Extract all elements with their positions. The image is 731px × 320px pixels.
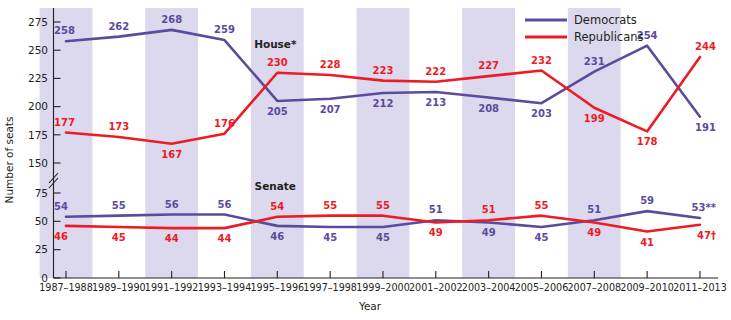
- y-tick-label: 150: [28, 157, 48, 169]
- data-point-label: 45: [535, 232, 549, 243]
- y-tick-label: 200: [28, 100, 48, 112]
- data-point-label: 41: [640, 237, 654, 248]
- data-point-label: 259: [214, 24, 235, 35]
- data-point-label: 177: [54, 117, 75, 128]
- data-point-label: 55: [323, 200, 337, 211]
- data-point-label: 212: [373, 98, 394, 109]
- chamber-label-house: House*: [254, 38, 297, 50]
- data-point-label: 55: [112, 200, 126, 211]
- data-point-label: 178: [637, 136, 658, 147]
- data-point-label: 45: [112, 232, 126, 243]
- data-point-label: 51: [482, 204, 496, 215]
- y-tick-label: 50: [35, 215, 48, 227]
- y-tick-label: 275: [28, 16, 48, 28]
- x-tick-label: 2003–2004: [462, 282, 516, 293]
- data-point-label: 55: [535, 200, 549, 211]
- x-tick-label: 2011–2013: [673, 282, 727, 293]
- data-point-label: 46: [270, 231, 284, 242]
- data-point-label: 222: [425, 66, 446, 77]
- x-tick-label: 1987–1988: [39, 282, 93, 293]
- data-point-label: 258: [54, 25, 75, 36]
- data-point-label: 205: [267, 106, 288, 117]
- data-point-label: 49: [482, 227, 496, 238]
- y-tick-label: 75: [35, 187, 48, 199]
- data-point-label: 232: [531, 55, 552, 66]
- data-point-label: 55: [376, 200, 390, 211]
- x-tick-label: 1995–1996: [250, 282, 304, 293]
- data-point-label: 208: [478, 103, 499, 114]
- party-seats-chart: 0255075150175200225250275 1987–19881989–…: [0, 0, 731, 320]
- data-point-label: 203: [531, 108, 552, 119]
- data-point-label: 223: [373, 65, 394, 76]
- data-point-label: 51: [429, 204, 443, 215]
- x-tick-label: 2007–2008: [567, 282, 621, 293]
- data-point-label: 227: [478, 60, 499, 71]
- data-point-label: 230: [267, 57, 288, 68]
- y-tick-label: 175: [28, 129, 48, 141]
- data-point-label: 44: [218, 233, 232, 244]
- x-tick-label: 1989–1990: [92, 282, 146, 293]
- data-point-label: 54: [54, 201, 68, 212]
- data-point-label: 199: [584, 113, 605, 124]
- x-tick-label: 2005–2006: [515, 282, 569, 293]
- data-point-label: 53**: [692, 202, 717, 213]
- y-axis-title: Number of seats: [3, 117, 15, 204]
- x-tick-label: 1997–1998: [303, 282, 357, 293]
- data-point-label: 54: [270, 201, 284, 212]
- data-point-label: 231: [584, 56, 605, 67]
- x-tick-label: 2009–2010: [620, 282, 674, 293]
- data-point-label: 59: [640, 195, 654, 206]
- y-tick-label: 225: [28, 72, 48, 84]
- data-point-label: 167: [161, 149, 182, 160]
- y-tick-label: 25: [35, 243, 48, 255]
- data-point-label: 46: [54, 231, 68, 242]
- data-point-label: 207: [320, 104, 341, 115]
- data-point-label: 176: [214, 118, 235, 129]
- data-point-label: 213: [425, 97, 446, 108]
- data-point-label: 244: [695, 41, 716, 52]
- x-tick-label: 1999–2000: [356, 282, 410, 293]
- data-point-label: 262: [108, 21, 129, 32]
- data-point-label: 47†: [697, 230, 716, 241]
- x-tick-label: 1991–1992: [145, 282, 199, 293]
- data-point-label: 228: [320, 59, 341, 70]
- x-axis-title: Year: [358, 300, 382, 312]
- data-point-label: 51: [587, 204, 601, 215]
- x-axis-ticks: 1987–19881989–19901991–19921993–19941995…: [39, 271, 727, 293]
- data-point-label: 49: [587, 227, 601, 238]
- data-point-label: 56: [218, 199, 232, 210]
- legend-label-republicans: Republicans: [574, 30, 643, 44]
- x-tick-label: 2001–2002: [409, 282, 463, 293]
- data-point-label: 56: [165, 199, 179, 210]
- y-tick-label: 250: [28, 44, 48, 56]
- data-point-label: 44: [165, 233, 179, 244]
- data-point-label: 49: [429, 227, 443, 238]
- data-point-label: 268: [161, 14, 182, 25]
- data-point-label: 191: [695, 122, 716, 133]
- data-point-label: 45: [323, 232, 337, 243]
- x-tick-label: 1993–1994: [198, 282, 252, 293]
- chamber-label-senate: Senate: [255, 180, 296, 192]
- legend-label-democrats: Democrats: [574, 13, 637, 27]
- chart-canvas: 0255075150175200225250275 1987–19881989–…: [0, 0, 731, 320]
- data-point-label: 45: [376, 232, 390, 243]
- data-point-label: 173: [108, 121, 129, 132]
